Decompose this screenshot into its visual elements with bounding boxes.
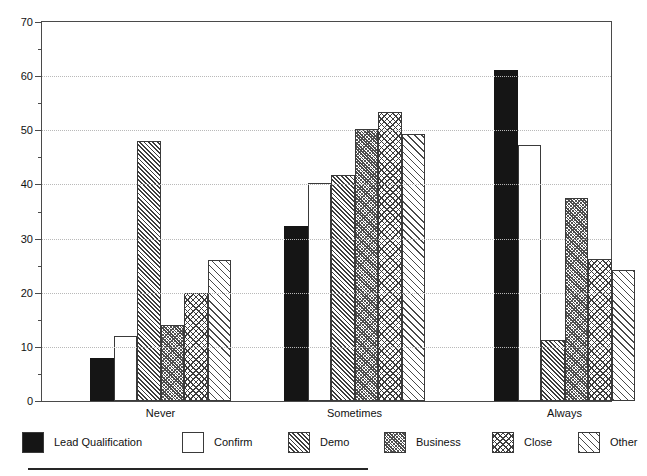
legend-label: Confirm: [214, 436, 253, 448]
y-axis-label-40: 40: [21, 179, 33, 190]
bar-sometimes-business: [355, 129, 379, 401]
legend-swatch-close-icon: [492, 432, 514, 453]
legend-label: Close: [524, 436, 552, 448]
gridline-40: [42, 184, 611, 185]
y-axis-label-60: 60: [21, 71, 33, 82]
y-minor-tick-55: [38, 103, 42, 104]
legend-item-other[interactable]: Other: [578, 430, 638, 454]
legend-label: Other: [610, 436, 638, 448]
bar-chart-figure: 010203040506070 NeverSometimesAlways Lea…: [0, 0, 647, 476]
y-tick-40: [35, 184, 42, 185]
gridline-20: [42, 293, 611, 294]
bar-sometimes-lead-qualification: [284, 226, 308, 401]
bar-sometimes-close: [378, 112, 402, 401]
legend-swatch-confirm-icon: [182, 432, 204, 453]
legend-item-lead-qualification[interactable]: Lead Qualification: [22, 430, 142, 454]
legend-label: Business: [416, 436, 461, 448]
y-tick-60: [35, 76, 42, 77]
legend-swatch-demo-icon: [288, 432, 310, 453]
legend-label: Demo: [320, 436, 349, 448]
bar-never-confirm: [114, 336, 138, 401]
y-minor-tick-45: [38, 157, 42, 158]
x-axis-label-always: Always: [547, 407, 582, 419]
bar-never-demo: [137, 141, 161, 401]
y-axis-label-70: 70: [21, 17, 33, 28]
y-minor-tick-65: [38, 49, 42, 50]
gridline-30: [42, 239, 611, 240]
y-tick-0: [35, 401, 42, 402]
gridline-50: [42, 130, 611, 131]
y-axis-label-0: 0: [27, 396, 33, 407]
chart-legend: Lead QualificationConfirmDemoBusinessClo…: [0, 430, 647, 464]
bar-always-other: [612, 270, 636, 401]
y-minor-tick-5: [38, 374, 42, 375]
y-minor-tick-15: [38, 320, 42, 321]
legend-item-close[interactable]: Close: [492, 430, 552, 454]
legend-swatch-lead-qualification-icon: [22, 432, 44, 453]
y-tick-70: [35, 22, 42, 23]
y-axis-label-30: 30: [21, 233, 33, 244]
gridline-10: [42, 347, 611, 348]
legend-swatch-business-icon: [384, 432, 406, 453]
y-minor-tick-35: [38, 212, 42, 213]
bars-layer: [42, 22, 611, 401]
bar-always-lead-qualification: [494, 70, 518, 401]
legend-swatch-other-icon: [578, 432, 600, 453]
legend-item-business[interactable]: Business: [384, 430, 461, 454]
x-axis-label-sometimes: Sometimes: [327, 407, 382, 419]
y-axis-label-50: 50: [21, 125, 33, 136]
legend-item-demo[interactable]: Demo: [288, 430, 349, 454]
bar-sometimes-other: [402, 134, 426, 401]
bar-always-demo: [541, 340, 565, 401]
y-tick-30: [35, 239, 42, 240]
y-tick-50: [35, 130, 42, 131]
legend-item-confirm[interactable]: Confirm: [182, 430, 253, 454]
y-tick-20: [35, 293, 42, 294]
bar-never-lead-qualification: [90, 358, 114, 401]
bar-never-business: [161, 325, 185, 401]
bar-always-confirm: [518, 145, 542, 401]
bar-always-business: [565, 198, 589, 401]
x-axis-label-never: Never: [146, 407, 175, 419]
y-axis-label-20: 20: [21, 287, 33, 298]
bottom-divider-rule: [28, 468, 368, 470]
gridline-60: [42, 76, 611, 77]
bar-sometimes-demo: [331, 175, 355, 401]
plot-area: 010203040506070 NeverSometimesAlways: [41, 21, 612, 402]
y-minor-tick-25: [38, 266, 42, 267]
y-tick-10: [35, 347, 42, 348]
bar-never-other: [208, 260, 232, 401]
bar-always-close: [588, 259, 612, 401]
legend-label: Lead Qualification: [54, 436, 142, 448]
y-axis-label-10: 10: [21, 341, 33, 352]
